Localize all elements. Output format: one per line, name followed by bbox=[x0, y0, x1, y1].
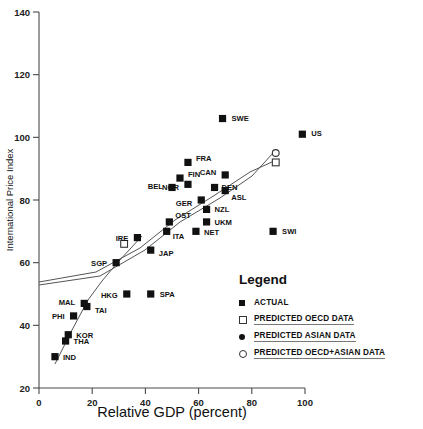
marker-actual bbox=[184, 181, 191, 188]
marker-actual bbox=[299, 131, 306, 138]
marker-actual bbox=[147, 290, 154, 297]
point-label: GER bbox=[176, 199, 193, 208]
point-label: OST bbox=[175, 211, 191, 220]
point-label: MAL bbox=[59, 298, 76, 307]
point-label: SWE bbox=[232, 114, 249, 123]
marker-actual bbox=[269, 228, 276, 235]
marker-actual bbox=[70, 312, 77, 319]
y-tick-label: 80 bbox=[19, 195, 30, 206]
y-tick-label: 120 bbox=[14, 69, 30, 80]
open-circle-icon-glyph bbox=[239, 350, 247, 358]
marker-actual bbox=[123, 290, 130, 297]
marker-actual bbox=[83, 303, 90, 310]
legend-item-label: PREDICTED OECD DATA bbox=[254, 314, 354, 325]
x-tick-label: 20 bbox=[87, 397, 98, 408]
marker-actual bbox=[211, 184, 218, 191]
legend-title: Legend bbox=[239, 272, 421, 287]
y-tick-label: 140 bbox=[14, 7, 30, 18]
x-tick-label: 100 bbox=[297, 397, 313, 408]
y-axis-title: International Price Index bbox=[4, 149, 15, 252]
marker-actual bbox=[176, 174, 183, 181]
marker-actual bbox=[203, 206, 210, 213]
marker-actual bbox=[163, 228, 170, 235]
marker-actual bbox=[184, 159, 191, 166]
marker-actual bbox=[192, 228, 199, 235]
marker-actual bbox=[65, 331, 72, 338]
point-label: KOR bbox=[76, 331, 93, 340]
point-label: SGP bbox=[91, 259, 107, 268]
point-label: BEL bbox=[148, 182, 164, 191]
point-label: ASL bbox=[231, 193, 247, 202]
legend-item[interactable]: ACTUAL bbox=[239, 294, 421, 311]
x-tick-label: 0 bbox=[36, 397, 41, 408]
point-label: US bbox=[311, 129, 322, 138]
point-label: IRE bbox=[116, 234, 129, 243]
point-label: NZL bbox=[215, 205, 230, 214]
marker-actual bbox=[198, 196, 205, 203]
point-label: CAN bbox=[200, 168, 216, 177]
x-axis-title: Relative GDP (percent) bbox=[97, 404, 247, 420]
point-label: FIN bbox=[188, 170, 200, 179]
legend-item-label: PREDICTED ASIAN DATA bbox=[254, 331, 356, 342]
legend-item-label: ACTUAL bbox=[254, 298, 289, 307]
point-label: DEN bbox=[222, 183, 238, 192]
filled-square-icon bbox=[239, 300, 254, 306]
marker-actual bbox=[62, 337, 69, 344]
open-circle-icon bbox=[239, 350, 254, 358]
marker-predicted-oecd bbox=[272, 159, 279, 166]
y-ticks-group: 20406080100120140 bbox=[14, 7, 39, 394]
filled-circle-icon bbox=[239, 334, 254, 340]
marker-actual bbox=[203, 218, 210, 225]
marker-actual bbox=[113, 259, 120, 266]
marker-actual bbox=[147, 247, 154, 254]
point-label: JAP bbox=[159, 249, 174, 258]
point-label: NET bbox=[204, 228, 220, 237]
axis-titles-group: Relative GDP (percent) International Pri… bbox=[4, 149, 247, 420]
chart-root: 20406080100120140 020406080100 INDTHAKOR… bbox=[0, 0, 423, 429]
y-tick-label: 40 bbox=[19, 320, 30, 331]
point-label: IND bbox=[63, 353, 77, 362]
point-label: SPA bbox=[160, 290, 176, 299]
legend-rows: ACTUALPREDICTED OECD DATAPREDICTED ASIAN… bbox=[225, 294, 421, 362]
filled-square-icon-glyph bbox=[239, 300, 245, 306]
point-label: HKG bbox=[101, 291, 118, 300]
open-square-icon-glyph bbox=[239, 316, 247, 324]
y-tick-label: 60 bbox=[19, 257, 30, 268]
oecd-fit-line bbox=[39, 161, 274, 282]
legend-item-label: PREDICTED OECD+ASIAN DATA bbox=[254, 348, 385, 359]
marker-predicted-oecd-asian bbox=[272, 150, 279, 157]
marker-actual bbox=[222, 171, 229, 178]
marker-actual bbox=[51, 353, 58, 360]
scatter-plot-svg: 20406080100120140 020406080100 INDTHAKOR… bbox=[0, 0, 423, 429]
point-label: TAI bbox=[95, 306, 107, 315]
legend: Legend ACTUALPREDICTED OECD DATAPREDICTE… bbox=[225, 272, 421, 362]
point-label: NOR bbox=[162, 183, 179, 192]
point-label: SWI bbox=[282, 227, 296, 236]
legend-item[interactable]: PREDICTED OECD+ASIAN DATA bbox=[239, 345, 421, 362]
marker-actual bbox=[166, 218, 173, 225]
legend-item[interactable]: PREDICTED ASIAN DATA bbox=[239, 328, 421, 345]
marker-actual bbox=[219, 115, 226, 122]
x-tick-label: 80 bbox=[247, 397, 258, 408]
filled-circle-icon-glyph bbox=[239, 334, 245, 340]
point-label: UKM bbox=[215, 218, 232, 227]
oecd-asian-fit-line bbox=[39, 152, 274, 285]
point-label: PHI bbox=[52, 312, 65, 321]
point-label: FRA bbox=[196, 154, 212, 163]
point-label: ITA bbox=[173, 232, 185, 241]
open-square-icon bbox=[239, 316, 254, 324]
marker-actual bbox=[134, 234, 141, 241]
y-tick-label: 20 bbox=[19, 383, 30, 394]
y-tick-label: 100 bbox=[14, 132, 30, 143]
legend-item[interactable]: PREDICTED OECD DATA bbox=[239, 311, 421, 328]
